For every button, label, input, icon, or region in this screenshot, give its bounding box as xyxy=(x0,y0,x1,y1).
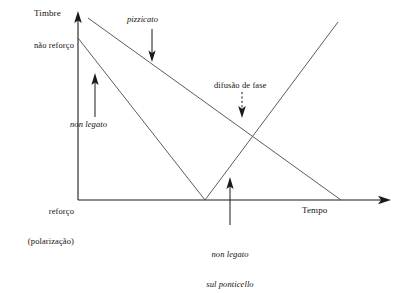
y-tick-label-reforco-line1: reforço xyxy=(6,206,74,216)
pizzicato-curve xyxy=(88,18,341,200)
annotation-non-legato: non legato xyxy=(70,119,107,129)
non-legato-rise-curve xyxy=(205,22,338,200)
y-tick-label-reforco: reforço (polarização) xyxy=(6,186,74,266)
difusao-de-fase-arrow-head xyxy=(238,106,246,118)
x-axis-label: Tempo xyxy=(302,205,327,215)
annotation-pizzicato: pizzicato xyxy=(127,14,158,24)
y-axis-label: Timbre xyxy=(34,8,61,18)
y-tick-label-nao-reforco: não reforço xyxy=(18,40,74,50)
annotation-sul-ponticello-line1: non legato xyxy=(186,249,274,259)
annotation-difusao-de-fase: difusão de fase xyxy=(214,80,266,90)
annotation-non-legato-sul-ponticello: non legato sul ponticello xyxy=(186,229,274,293)
y-tick-label-polarizacao-line2: (polarização) xyxy=(6,236,74,246)
annotation-sul-ponticello-line2: sul ponticello xyxy=(186,279,274,289)
